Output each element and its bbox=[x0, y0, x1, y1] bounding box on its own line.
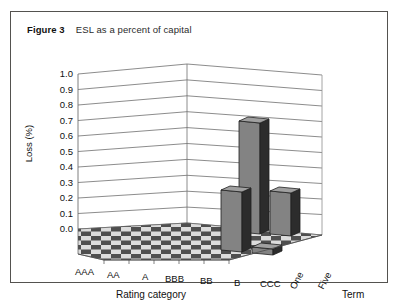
bar-CCC-Five bbox=[270, 187, 300, 236]
xtick-label-aaa: AAA bbox=[75, 267, 94, 277]
figure-caption: Figure 3ESL as a percent of capital bbox=[27, 24, 192, 36]
ytick-label: 0.8 bbox=[47, 100, 73, 110]
ytick-label: 0.4 bbox=[47, 162, 73, 172]
ytick-label: 0.3 bbox=[47, 178, 73, 188]
back-wall-left bbox=[78, 64, 187, 229]
chart-plot-area: 1.0 0.9 0.8 0.7 0.6 0.5 0.4 0.3 0.2 0.1 … bbox=[11, 38, 389, 284]
ytick-label: 0.6 bbox=[47, 131, 73, 141]
ytick-label: 0.2 bbox=[47, 193, 73, 203]
ytick-label: 0.9 bbox=[47, 85, 73, 95]
xtick-label-ccc: CCC bbox=[260, 279, 281, 289]
category-tick-marks bbox=[104, 260, 229, 264]
xtick-label-aa: AA bbox=[107, 270, 120, 280]
figure-number: Figure 3 bbox=[27, 24, 65, 35]
ytick-label: 0.0 bbox=[47, 224, 73, 234]
y-axis-title: Loss (%) bbox=[23, 114, 34, 174]
bar-CCC-One bbox=[252, 243, 282, 255]
ytick-label: 0.7 bbox=[47, 116, 73, 126]
figure-frame: Figure 3ESL as a percent of capital bbox=[10, 11, 388, 283]
xtick-label-bbb: BBB bbox=[165, 274, 184, 284]
xtick-label-a: A bbox=[142, 272, 148, 282]
bar-B-One bbox=[221, 186, 251, 252]
z-axis-title: Term bbox=[342, 289, 364, 300]
ytick-label: 0.5 bbox=[47, 147, 73, 157]
figure-title: ESL as a percent of capital bbox=[76, 24, 192, 35]
ytick-label: 0.1 bbox=[47, 209, 73, 219]
xtick-label-b: B bbox=[234, 278, 240, 288]
ytick-label: 1.0 bbox=[47, 69, 73, 79]
x-axis-title: Rating category bbox=[116, 289, 186, 300]
xtick-label-bb: BB bbox=[200, 276, 213, 286]
